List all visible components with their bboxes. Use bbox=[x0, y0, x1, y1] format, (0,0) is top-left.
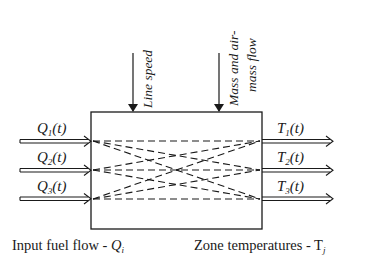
input-arrow-q1 bbox=[20, 136, 91, 147]
input-arrow-q2 bbox=[20, 165, 91, 176]
mass-flow-label-line1: Mass and air- bbox=[226, 30, 241, 107]
input-label-q3: Q3(t) bbox=[37, 178, 67, 196]
output-label-t3: T3(t) bbox=[277, 178, 304, 196]
mass-flow-label-line2: mass flow bbox=[244, 38, 259, 92]
input-caption: Input fuel flow - Qi bbox=[12, 237, 124, 255]
output-label-t1: T1(t) bbox=[277, 120, 304, 138]
output-arrow-t1 bbox=[262, 136, 333, 147]
output-labels: T1(t) T2(t) T3(t) bbox=[277, 120, 304, 196]
input-label-q1: Q1(t) bbox=[37, 120, 67, 138]
output-arrow-t3 bbox=[262, 194, 333, 205]
input-labels: Q1(t) Q2(t) Q3(t) bbox=[37, 120, 67, 196]
process-block-diagram: Line speed Mass and air- mass flow bbox=[0, 0, 365, 275]
output-arrow-t2 bbox=[262, 165, 333, 176]
input-label-q2: Q2(t) bbox=[37, 149, 67, 167]
coupling-lines bbox=[93, 141, 260, 199]
output-caption: Zone temperatures - Tj bbox=[194, 237, 326, 255]
output-label-t2: T2(t) bbox=[277, 149, 304, 167]
input-arrow-q3 bbox=[20, 194, 91, 205]
line-speed-label: Line speed bbox=[140, 50, 155, 109]
